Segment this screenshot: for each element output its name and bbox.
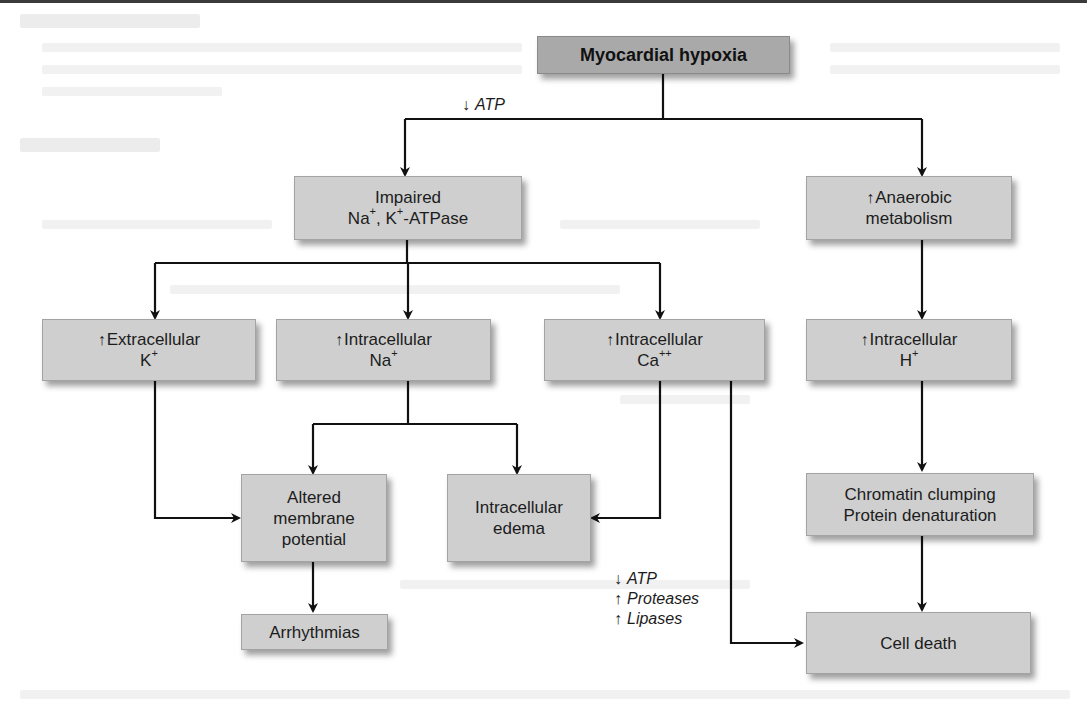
node-label-line1: ↑Intracellular [861, 329, 958, 350]
up-arrow-icon: ↑ [335, 331, 343, 348]
factor-atp: ↓ATP [614, 569, 699, 589]
node-label-line2: Protein denaturation [843, 505, 996, 526]
annotation-cell-death-factors: ↓ATP ↑Proteases ↑Lipases [614, 569, 699, 629]
na-charge: + [370, 205, 376, 217]
label-text: Intracellular [344, 330, 432, 349]
node-intracellular-edema: Intracellular edema [447, 474, 591, 562]
annotation-text: ATP [475, 96, 505, 113]
k-text: , K [376, 209, 397, 228]
node-altered-membrane-potential: Altered membrane potential [241, 474, 387, 562]
up-arrow-icon: ↑ [866, 189, 874, 206]
node-chromatin-clumping: Chromatin clumping Protein denaturation [806, 473, 1034, 536]
factor-lipases: ↑Lipases [614, 609, 699, 629]
ion-charge: + [912, 347, 918, 359]
ion-text: H [900, 351, 912, 370]
up-arrow-icon: ↑ [614, 589, 627, 609]
node-label-line1: ↑Intracellular [335, 329, 432, 350]
node-arrhythmias: Arrhythmias [241, 614, 388, 650]
node-label-line1: ↑Anaerobic [866, 187, 952, 208]
down-arrow-icon: ↓ [614, 569, 627, 589]
label-text: Anaerobic [875, 188, 952, 207]
node-label-line1: ↑Extracellular [98, 329, 201, 350]
node-label-line2: Na+ [369, 350, 397, 371]
ion-charge: + [391, 347, 397, 359]
node-intracellular-ca: ↑Intracellular Ca++ [544, 319, 765, 381]
factor-text: Proteases [627, 590, 699, 607]
node-label-line1: Intracellular [475, 497, 563, 518]
down-arrow-icon: ↓ [462, 95, 475, 115]
up-arrow-icon: ↑ [606, 331, 614, 348]
na-text: Na [348, 209, 370, 228]
node-intracellular-na: ↑Intracellular Na+ [276, 319, 491, 381]
ion-text: Ca [637, 351, 659, 370]
factor-text: ATP [627, 570, 657, 587]
node-label-line2: Na+, K+-ATPase [348, 208, 468, 229]
ion-charge: ++ [659, 347, 672, 359]
node-intracellular-h: ↑Intracellular H+ [806, 319, 1012, 381]
up-arrow-icon: ↑ [98, 331, 106, 348]
node-label-line3: potential [282, 529, 346, 550]
k-charge: + [397, 205, 403, 217]
ion-charge: + [151, 347, 157, 359]
node-label: Myocardial hypoxia [580, 45, 747, 66]
node-label-line1: Chromatin clumping [844, 484, 995, 505]
node-label-line2: metabolism [866, 208, 953, 229]
node-label-line2: membrane [273, 508, 354, 529]
node-myocardial-hypoxia: Myocardial hypoxia [537, 36, 790, 74]
node-anaerobic-metabolism: ↑Anaerobic metabolism [806, 176, 1012, 240]
node-extracellular-k: ↑Extracellular K+ [42, 319, 256, 381]
node-cell-death: Cell death [806, 612, 1031, 674]
node-label-line2: edema [493, 518, 545, 539]
node-label-line2: H+ [900, 350, 919, 371]
node-label: Arrhythmias [269, 622, 360, 643]
node-label: Cell death [880, 633, 957, 654]
node-label-line1: Impaired [375, 187, 441, 208]
up-arrow-icon: ↑ [861, 331, 869, 348]
node-label-line1: ↑Intracellular [606, 329, 703, 350]
up-arrow-icon: ↑ [614, 609, 627, 629]
node-label-line2: K+ [140, 350, 158, 371]
node-label-line2: Ca++ [637, 350, 672, 371]
annotation-atp-decrease: ↓ATP [462, 95, 505, 115]
atpase-text: -ATPase [403, 209, 468, 228]
node-label-line1: Altered [287, 487, 341, 508]
ion-text: K [140, 351, 151, 370]
factor-text: Lipases [627, 610, 682, 627]
node-impaired-atpase: Impaired Na+, K+-ATPase [294, 176, 522, 240]
factor-proteases: ↑Proteases [614, 589, 699, 609]
ion-text: Na [369, 351, 391, 370]
